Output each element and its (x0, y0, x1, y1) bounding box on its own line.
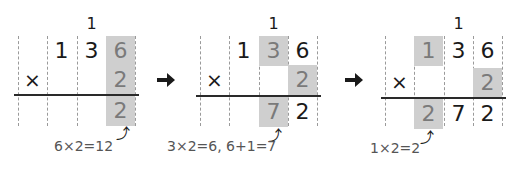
grid-line (317, 36, 318, 126)
carry-digit: 1 (77, 14, 106, 33)
multiply-sign: × (206, 68, 223, 92)
top-digit-tens: 3 (444, 36, 473, 66)
result-digit-ones: 2 (288, 97, 317, 127)
top-digit-ones: 6 (288, 36, 317, 66)
multiplier-digit: 2 (473, 68, 502, 98)
multiply-sign: × (391, 70, 408, 94)
top-digit-tens: 3 (259, 36, 288, 66)
right-arrow-icon (155, 70, 177, 90)
step-note: 6×2=12 (54, 138, 113, 154)
multiplier-digit: 2 (288, 65, 317, 95)
result-digit-tens: 7 (444, 99, 473, 129)
carry-digit: 1 (444, 14, 473, 33)
grid-line (135, 36, 136, 126)
step-2-panel: 1 1 3 6 × 2 7 2 ⤴ 3×2=6, 6+1=7 (200, 0, 330, 172)
carry-digit: 1 (259, 14, 288, 33)
top-digit-hundreds: 1 (47, 36, 76, 66)
top-digit-tens: 3 (77, 36, 106, 66)
step-3-panel: 1 1 3 6 × 2 2 7 2 ⤴ 1×2=2 (385, 0, 513, 172)
top-digit-hundreds: 1 (414, 36, 443, 66)
grid-line (18, 36, 19, 126)
result-digit-tens: 7 (259, 97, 288, 127)
multiply-sign: × (24, 68, 41, 92)
top-digit-hundreds: 1 (229, 36, 258, 66)
grid-line (200, 36, 201, 126)
multiplier-digit: 2 (106, 65, 135, 95)
step-1-panel: 1 1 3 6 × 2 2 ⤴ 6×2=12 (18, 0, 148, 172)
hook-mark: ⤴ (420, 126, 434, 146)
top-digit-ones: 6 (473, 36, 502, 66)
step-note: 3×2=6, 6+1=7 (167, 138, 276, 154)
top-digit-ones: 6 (106, 36, 135, 66)
result-digit-ones: 2 (473, 99, 502, 129)
step-note: 1×2=2 (370, 140, 420, 156)
grid-line (502, 36, 503, 126)
grid-line (385, 36, 386, 126)
right-arrow-icon (343, 70, 365, 90)
result-digit-hundreds: 2 (414, 99, 443, 129)
hook-mark: ⤴ (116, 122, 130, 142)
